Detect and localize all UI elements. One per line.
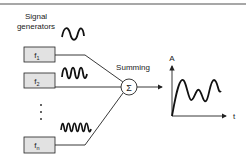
waveform-low-freq xyxy=(62,28,84,40)
signal-generators-label-line1: Signal xyxy=(25,12,47,21)
generator-f2: f2 xyxy=(24,73,55,88)
sigma-symbol: Σ xyxy=(126,83,132,93)
connector-fn xyxy=(55,93,123,145)
signal-generators-label-line2: generators xyxy=(17,22,55,31)
summing-label: Summing xyxy=(116,63,150,72)
summed-waveform xyxy=(172,80,221,116)
y-axis-label: A xyxy=(169,54,175,63)
x-axis-label: t xyxy=(233,112,236,121)
output-plot: A t xyxy=(169,54,236,121)
ellipsis-dots xyxy=(40,104,42,120)
waveform-high-freq xyxy=(61,123,91,132)
generator-fn: fn xyxy=(24,137,55,153)
generator-f1: f1 xyxy=(24,47,55,62)
signal-summing-diagram: Signal generators f1 f2 fn Summing Σ xyxy=(0,0,246,164)
waveform-mid-freq xyxy=(62,68,87,79)
